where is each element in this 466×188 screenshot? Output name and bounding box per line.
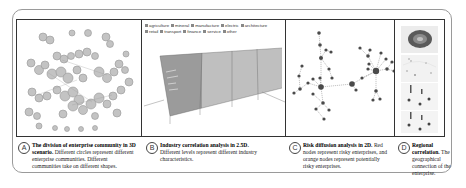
- caption-c-title: Risk diffusion analysis in 2D.: [303, 142, 372, 148]
- map-tile-heatmap: [401, 26, 438, 53]
- label-a-circle-icon: A: [18, 142, 30, 154]
- panel-a-3d-communities: [17, 20, 142, 136]
- layered-industry-chart: [142, 20, 286, 136]
- community-bubble-chart: [17, 20, 142, 136]
- panel-c-risk-diffusion: [286, 20, 395, 136]
- label-c-circle-icon: C: [289, 142, 301, 154]
- caption-d-title: Regional correlation.: [412, 142, 440, 155]
- panel-b-industry-correlation: agriculturemineralmanufactureelectricarc…: [142, 20, 286, 136]
- caption-b-description: Different levels represent different ind…: [160, 149, 257, 162]
- risk-network-graph: [286, 20, 395, 136]
- map-tile-points: [401, 55, 438, 82]
- label-b-circle-icon: B: [146, 142, 158, 154]
- map-tile-pins-2: [401, 111, 438, 133]
- figure-panels-frame: agriculturemineralmanufactureelectricarc…: [16, 19, 445, 137]
- panel-d-regional-correlation: [395, 20, 444, 136]
- map-tile-pins-1: [401, 83, 438, 110]
- caption-b-title: Industry correlation analysis in 2.5D.: [160, 142, 249, 148]
- label-d-circle-icon: D: [398, 142, 410, 154]
